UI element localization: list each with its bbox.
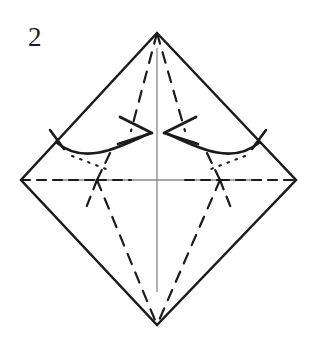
crease-lines-group — [21, 33, 296, 325]
crease-left-junction-to-bottom — [97, 180, 157, 325]
dotted-left-hidden-edge — [72, 156, 106, 169]
right-fold-arrow — [164, 117, 266, 154]
origami-figure: 2 — [0, 0, 321, 338]
right-fold-arrow-head — [164, 117, 198, 144]
dotted-right-hidden-edge — [211, 156, 245, 169]
left-fold-arrow — [50, 117, 152, 154]
crease-right-junction-to-bottom — [157, 180, 220, 325]
center-axes-group — [56, 48, 262, 292]
crease-left-junction-lower-spur — [86, 180, 97, 208]
crease-right-junction-lower-spur — [220, 180, 231, 208]
origami-diagram-svg — [0, 0, 321, 338]
left-fold-arrow-head — [118, 117, 152, 144]
right-fold-arrow-shaft — [166, 133, 260, 154]
dotted-hidden-edges-group — [72, 156, 245, 169]
left-fold-arrow-shaft — [56, 133, 150, 154]
step-number-label: 2 — [28, 24, 42, 51]
